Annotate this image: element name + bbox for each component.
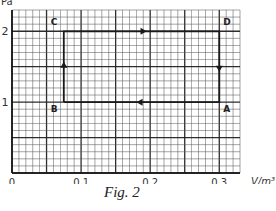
figure-caption: Fig. 2 [104,184,140,201]
direction-arrow-icon [216,66,223,72]
direction-arrow-icon [137,99,143,106]
y-axis-label: Pa [1,0,13,7]
x-tick-label: 0 [9,177,15,184]
point-label-d: D [223,17,230,27]
y-tick-label: 1 [2,96,9,109]
point-label-a: A [223,104,230,114]
y-tick-label: 2 [2,25,9,38]
x-axis-label: V/m³ [251,176,275,184]
point-label-b: B [51,104,58,114]
x-tick-label: 0.1 [73,177,89,184]
direction-arrow-icon [60,62,67,68]
x-tick-label: 0.3 [211,177,227,184]
x-tick-label: 0.2 [142,177,158,184]
pv-diagram: 00.10.20.312PaV/m³ABCD [0,0,276,184]
point-label-c: C [51,17,58,27]
